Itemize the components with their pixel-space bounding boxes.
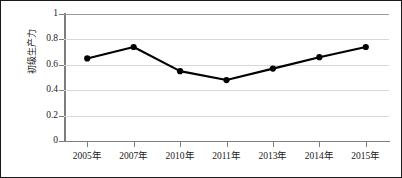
series-layer xyxy=(1,1,402,178)
chart-figure: 初级生产力 00.20.40.60.81 2005年2007年2010年2011… xyxy=(0,0,402,178)
data-point xyxy=(177,68,183,74)
series-line xyxy=(87,47,366,80)
data-point xyxy=(223,77,229,83)
data-point xyxy=(363,44,369,50)
data-point xyxy=(270,66,276,72)
data-point xyxy=(131,44,137,50)
data-point xyxy=(316,54,322,60)
series-markers xyxy=(84,44,369,83)
data-point xyxy=(84,55,90,61)
